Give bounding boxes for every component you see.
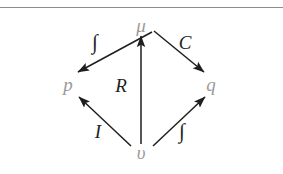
edge-label-upsilon-to-p: I [95, 122, 101, 141]
edge-label-upsilon-to-q: ∫ [179, 121, 185, 142]
arrow-upsilon-to-p [79, 97, 131, 146]
node-p: p [63, 75, 73, 94]
node-mu: μ [136, 16, 146, 35]
edge-label-mu-to-p: ∫ [92, 32, 98, 53]
node-upsilon: υ [137, 143, 146, 162]
edge-label-mu-to-q: C [179, 33, 192, 52]
edge-label-upsilon-to-mu: R [115, 76, 127, 95]
node-q: q [206, 75, 216, 94]
commutative-diagram: μ p q υ ∫ C R I ∫ [0, 0, 283, 174]
